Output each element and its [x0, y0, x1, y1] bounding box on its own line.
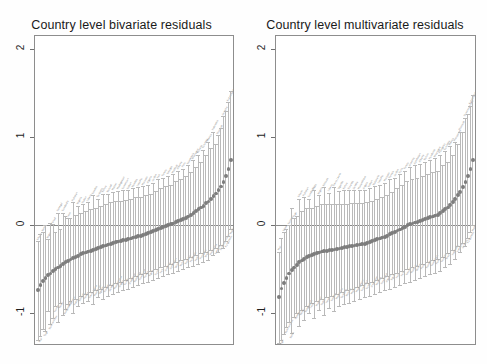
confidence-interval-cap — [191, 266, 195, 267]
confidence-interval-cap — [428, 274, 432, 275]
confidence-interval-cap — [181, 269, 185, 270]
confidence-interval-cap — [136, 187, 140, 188]
confidence-interval-cap — [302, 320, 306, 321]
panel-multivariate: Country level multivariate residuals Mal… — [243, 0, 487, 364]
confidence-interval-cap — [141, 283, 145, 284]
confidence-interval-cap — [166, 176, 170, 177]
confidence-interval-cap — [186, 267, 190, 268]
y-axis-tick-mark — [271, 137, 275, 138]
confidence-interval-cap — [111, 294, 115, 295]
confidence-interval-cap — [413, 165, 417, 166]
confidence-interval-cap — [322, 315, 326, 316]
country-label: Laos — [66, 211, 71, 217]
confidence-interval-cap — [388, 289, 392, 290]
confidence-interval-cap — [312, 190, 316, 191]
confidence-interval-cap — [176, 171, 180, 172]
confidence-interval-cap — [86, 202, 90, 203]
confidence-interval-cap — [226, 236, 230, 237]
confidence-interval-cap — [468, 232, 472, 233]
plot-area-bivariate: GhanaMaliBeninTogoNigerBurkina FasoChadG… — [35, 36, 233, 344]
confidence-interval-cap — [211, 255, 215, 256]
confidence-interval-cap — [378, 292, 382, 293]
residual-point[interactable] — [229, 158, 233, 162]
y-axis-tick-mark — [271, 313, 275, 314]
confidence-interval-cap — [363, 297, 367, 298]
confidence-interval-cap — [171, 273, 175, 274]
country-label: Mali — [39, 337, 44, 343]
confidence-interval-cap — [307, 313, 311, 314]
confidence-interval-cap — [196, 264, 200, 265]
confidence-interval-cap — [121, 190, 125, 191]
y-axis-tick-label: -1 — [15, 304, 26, 320]
confidence-interval-cap — [106, 194, 110, 195]
confidence-interval-cap — [312, 318, 316, 319]
confidence-interval-cap — [61, 213, 65, 214]
confidence-interval-cap — [206, 142, 210, 143]
confidence-interval-cap — [176, 271, 180, 272]
confidence-interval-cap — [101, 299, 105, 300]
confidence-interval-cap — [106, 296, 110, 297]
confidence-interval-cap — [151, 183, 155, 184]
confidence-interval-cap — [71, 202, 75, 203]
panel-title-bivariate: Country level bivariate residuals — [0, 18, 243, 32]
confidence-interval-cap — [458, 252, 462, 253]
confidence-interval-cap — [463, 246, 467, 247]
confidence-interval-cap — [56, 322, 60, 323]
confidence-interval-cap — [201, 262, 205, 263]
confidence-interval-cap — [206, 260, 210, 261]
confidence-interval-cap — [373, 186, 377, 187]
confidence-interval-cap — [91, 304, 95, 305]
confidence-interval-cap — [141, 186, 145, 187]
country-label: Benin — [290, 332, 296, 339]
confidence-interval-cap — [418, 278, 422, 279]
confidence-interval-cap — [428, 160, 432, 161]
confidence-interval-cap — [423, 162, 427, 163]
confidence-interval-cap — [131, 287, 135, 288]
confidence-interval-cap — [146, 282, 150, 283]
confidence-interval-cap — [76, 206, 80, 207]
y-axis-tick-label: 0 — [15, 216, 26, 232]
confidence-interval-cap — [317, 195, 321, 196]
confidence-interval-cap — [393, 287, 397, 288]
confidence-interval-cap — [61, 315, 65, 316]
confidence-interval-cap — [368, 188, 372, 189]
residual-point[interactable] — [471, 158, 475, 162]
country-label: India — [312, 183, 317, 189]
country-label: Togo — [44, 331, 49, 337]
confidence-interval-cap — [393, 178, 397, 179]
confidence-interval-cap — [116, 191, 120, 192]
confidence-interval-cap — [398, 285, 402, 286]
figure-canvas: Country level bivariate residuals GhanaM… — [0, 0, 487, 364]
y-axis-tick-label: 0 — [256, 216, 267, 232]
panel-bivariate: Country level bivariate residuals GhanaM… — [0, 0, 243, 364]
confidence-interval-cap — [327, 308, 331, 309]
y-axis-tick-mark — [30, 49, 34, 50]
confidence-interval-cap — [51, 224, 55, 225]
confidence-interval-cap — [161, 276, 165, 277]
panel-title-multivariate: Country level multivariate residuals — [243, 18, 487, 32]
confidence-interval-whisker — [215, 144, 216, 248]
confidence-interval-cap — [161, 178, 165, 179]
confidence-interval-cap — [368, 296, 372, 297]
y-axis-tick-label: 2 — [15, 40, 26, 56]
y-axis-tick-mark — [271, 49, 275, 50]
y-axis-tick-mark — [30, 313, 34, 314]
confidence-interval-cap — [438, 155, 442, 156]
plot-area-multivariate: MaliNigerChadBurkina FasoGuineaBeninTogo… — [276, 36, 475, 344]
confidence-interval-cap — [81, 204, 85, 205]
y-axis-tick-mark — [30, 137, 34, 138]
confidence-interval-cap — [71, 313, 75, 314]
confidence-interval-cap — [448, 146, 452, 147]
confidence-interval-cap — [388, 179, 392, 180]
confidence-interval-cap — [171, 174, 175, 175]
y-axis-tick-label: 2 — [256, 40, 267, 56]
confidence-interval-cap — [408, 167, 412, 168]
country-label: Chad — [51, 217, 57, 224]
confidence-interval-cap — [317, 310, 321, 311]
confidence-interval-cap — [191, 160, 195, 161]
confidence-interval-cap — [471, 95, 475, 96]
confidence-interval-cap — [126, 289, 130, 290]
confidence-interval-cap — [166, 274, 170, 275]
confidence-interval-cap — [126, 190, 130, 191]
y-axis-tick-mark — [271, 225, 275, 226]
